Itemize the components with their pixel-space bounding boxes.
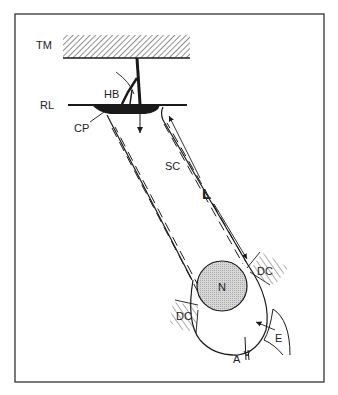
label-dc-right: DC <box>257 265 273 277</box>
label-tm: TM <box>36 39 52 51</box>
label-hb: HB <box>104 88 119 100</box>
label-n: N <box>218 281 226 293</box>
label-dc-left: DC <box>176 310 192 322</box>
label-cp: CP <box>74 122 89 134</box>
label-sc: SC <box>165 160 180 172</box>
efferent-arrow <box>256 322 275 330</box>
figure-frame <box>15 14 324 382</box>
label-rl: RL <box>40 99 54 111</box>
afferent-ending <box>244 337 250 360</box>
tectorial-membrane <box>63 35 190 58</box>
label-a: A <box>233 353 241 365</box>
diagram-figure: TM HB RL CP SC L N DC <box>0 0 338 395</box>
cuticular-plate <box>92 105 160 114</box>
label-l: L <box>202 185 211 202</box>
length-arrow-bottom <box>214 204 247 259</box>
label-e: E <box>275 332 282 344</box>
hair-bundle <box>116 58 140 104</box>
